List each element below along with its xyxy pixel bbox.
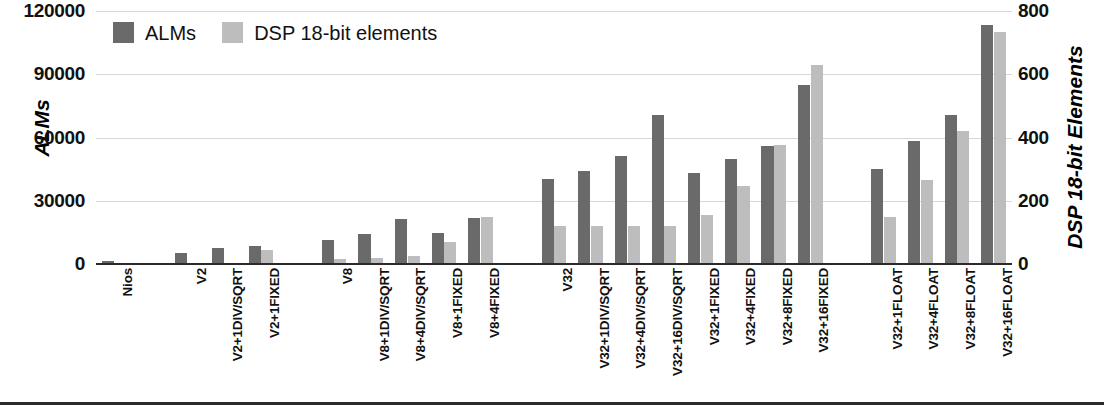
x-axis-tick-label: V8+4FIXED [487, 268, 502, 338]
legend-item-alms: ALMs [113, 22, 196, 43]
y-tick-label-left: 120000 [0, 1, 90, 20]
bar-alms [468, 218, 480, 264]
chart-legend: ALMs DSP 18-bit elements [113, 22, 437, 43]
y-tick-label-left: 0 [0, 254, 90, 273]
x-axis-tick-label: V32+16FLOAT [1000, 268, 1015, 357]
bar-dsp [554, 226, 566, 264]
bar-dsp [261, 250, 273, 264]
legend-label-alms: ALMs [145, 23, 196, 43]
x-axis-tick-label: V2+1DIV/SQRT [230, 268, 245, 361]
bar-dsp [994, 32, 1006, 264]
x-axis-tick-label: V32+16DIV/SQRT [670, 268, 685, 376]
bar-chart: ALMs DSP 18-bit Elements 0 30000 60000 9… [0, 0, 1104, 405]
bar-alms [578, 171, 590, 264]
y-tick-label-right: 400 [1018, 128, 1070, 147]
x-axis-tick-label: V32+1FIXED [707, 268, 722, 345]
bar-dsp [444, 242, 456, 264]
legend-swatch-alms-icon [113, 22, 134, 43]
legend-swatch-dsp-icon [222, 22, 243, 43]
bar-alms [212, 248, 224, 264]
bar-dsp [811, 65, 823, 264]
bar-alms [798, 85, 810, 264]
y-tick-label-left: 30000 [0, 191, 90, 210]
x-axis-tick-label: V32 [560, 268, 575, 291]
plot-area [96, 11, 1012, 264]
x-axis-tick-label: V8+1FIXED [450, 268, 465, 338]
bar-alms [945, 115, 957, 264]
bar-alms [322, 240, 334, 264]
bar-alms [395, 219, 407, 264]
x-axis-tick-label: V32+1DIV/SQRT [597, 268, 612, 369]
x-axis-tick-label: V2 [194, 268, 209, 284]
bar-alms [981, 25, 993, 265]
legend-label-dsp: DSP 18-bit elements [254, 23, 437, 43]
bar-alms [542, 179, 554, 264]
bar-alms [761, 146, 773, 264]
x-axis-tick-label: V32+8FIXED [780, 268, 795, 345]
bar-dsp [591, 226, 603, 264]
bar-alms [358, 234, 370, 264]
bar-dsp [737, 186, 749, 264]
y-tick-label-left: 90000 [0, 64, 90, 83]
bar-dsp [921, 180, 933, 264]
bar-alms [725, 159, 737, 264]
bar-dsp [701, 215, 713, 264]
x-axis-tick-label: V32+4FIXED [743, 268, 758, 345]
bar-dsp [481, 217, 493, 264]
x-axis-tick-label: V8+1DIV/SQRT [377, 268, 392, 361]
x-axis-tick-label: V32+4FLOAT [926, 268, 941, 349]
bar-alms [249, 246, 261, 264]
x-axis-tick-label: V8 [340, 268, 355, 284]
bar-alms [908, 141, 920, 264]
bar-dsp [664, 226, 676, 264]
y-axis-title-right: DSP 18-bit Elements [1063, 2, 1087, 292]
bar-dsp [957, 131, 969, 264]
x-axis-tick-label: Nios [120, 268, 135, 296]
x-axis-tick-label: V32+1FLOAT [890, 268, 905, 349]
x-axis-tick-label: V8+4DIV/SQRT [413, 268, 428, 361]
y-tick-label-left: 60000 [0, 128, 90, 147]
x-axis-line [96, 263, 1012, 265]
bars-layer [96, 11, 1012, 264]
bar-alms [688, 173, 700, 264]
bar-alms [432, 233, 444, 264]
bar-alms [615, 156, 627, 264]
x-axis-category-labels: NiosV2V2+1DIV/SQRTV2+1FIXEDV8V8+1DIV/SQR… [96, 268, 1012, 405]
x-axis-tick-label: V32+16FIXED [816, 268, 831, 352]
y-tick-label-right: 800 [1018, 1, 1070, 20]
y-tick-label-right: 200 [1018, 191, 1070, 210]
legend-item-dsp: DSP 18-bit elements [222, 22, 437, 43]
y-tick-label-right: 0 [1018, 254, 1070, 273]
bar-alms [652, 115, 664, 264]
bar-alms [871, 169, 883, 265]
x-axis-tick-label: V32+8FLOAT [963, 268, 978, 349]
bar-dsp [774, 145, 786, 264]
bar-dsp [628, 226, 640, 264]
x-axis-tick-label: V2+1FIXED [267, 268, 282, 338]
bar-dsp [884, 217, 896, 264]
x-axis-tick-label: V32+4DIV/SQRT [633, 268, 648, 369]
y-tick-label-right: 600 [1018, 64, 1070, 83]
